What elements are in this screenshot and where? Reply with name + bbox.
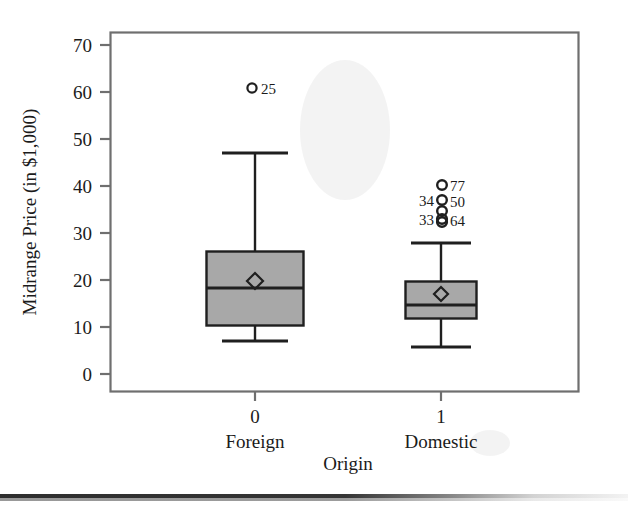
y-tick-label-40: 40	[73, 176, 92, 197]
y-axis-title: Midrange Price (in $1,000)	[19, 109, 41, 316]
x-tick-name-foreign: Foreign	[225, 431, 285, 452]
outlier-marker-foreign-25	[247, 83, 256, 92]
boxplot-figure: 70 60 50 40 30 20 10 0 Midrange Price (i…	[0, 0, 628, 506]
outlier-label-domestic-77: 77	[450, 178, 466, 194]
x-axis-tick-labels: 0 Foreign 1 Domestic	[225, 406, 477, 452]
outlier-marker-domestic-77	[437, 180, 447, 190]
y-tick-label-50: 50	[73, 129, 92, 150]
y-tick-label-60: 60	[73, 82, 92, 103]
x-tick-number-0: 0	[250, 406, 260, 427]
y-axis-tick-labels: 70 60 50 40 30 20 10 0	[73, 35, 92, 385]
outlier-label-foreign-25: 25	[261, 81, 276, 97]
x-tick-number-1: 1	[436, 406, 446, 427]
outlier-label-domestic-33: 33	[419, 212, 434, 228]
y-tick-label-10: 10	[73, 317, 92, 338]
y-tick-label-70: 70	[73, 35, 92, 56]
y-tick-label-20: 20	[73, 270, 92, 291]
outlier-label-domestic-64: 64	[450, 213, 466, 229]
boxplot-group-foreign: 25	[207, 81, 304, 341]
outlier-marker-domestic-34	[437, 195, 447, 205]
y-tick-label-30: 30	[73, 223, 92, 244]
y-tick-label-0: 0	[83, 364, 93, 385]
plot-frame	[111, 33, 579, 392]
scanned-page-edge-shadow	[0, 498, 628, 501]
boxplot-svg: 70 60 50 40 30 20 10 0 Midrange Price (i…	[0, 0, 628, 506]
outlier-label-domestic-50: 50	[450, 194, 465, 210]
outlier-label-domestic-34: 34	[419, 193, 435, 209]
x-tick-name-domestic: Domestic	[405, 431, 478, 452]
x-axis-title: Origin	[323, 453, 373, 474]
y-axis-ticks	[100, 45, 110, 374]
boxplot-group-domestic: 77 34 50 33 64	[406, 178, 477, 347]
